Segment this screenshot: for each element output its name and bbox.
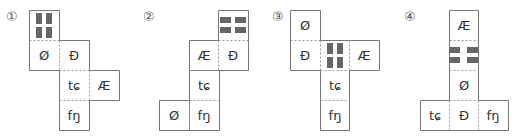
net-4-face: fŋ <box>478 100 508 130</box>
bar-pattern-icon <box>449 57 460 63</box>
net-4-face: Æ <box>449 10 479 40</box>
bar-pattern-icon <box>467 57 478 63</box>
bar-pattern-icon <box>449 47 460 53</box>
net-4-face: Đ <box>449 100 479 130</box>
net-4-face-bars <box>449 40 479 70</box>
net-4-face: tɕ <box>420 100 450 130</box>
net-4-face: Ø <box>449 70 479 100</box>
bar-pattern-icon <box>467 47 478 53</box>
net-option-4: ④ Æ Ø tɕ Đ fŋ <box>0 0 517 140</box>
